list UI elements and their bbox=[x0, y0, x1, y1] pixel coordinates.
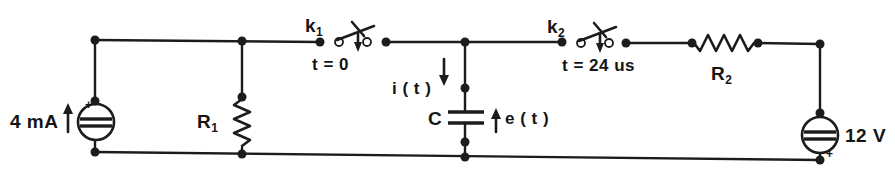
resistor-r2-label: R2 bbox=[711, 64, 732, 86]
node-capacitor-upper bbox=[461, 84, 470, 93]
node-r1-upper bbox=[238, 93, 247, 102]
resistor-r2-symbol bbox=[694, 35, 754, 51]
switch-k1-letter: k bbox=[305, 15, 316, 36]
node-voltage-source-top bbox=[816, 109, 825, 118]
node-k2-right bbox=[622, 39, 631, 48]
switch-k2-letter: k bbox=[547, 16, 558, 37]
switch-k1-label: k1 bbox=[305, 16, 323, 38]
current-source-plus-sign: + bbox=[85, 99, 92, 111]
node-k1-right bbox=[382, 38, 391, 47]
switch-k2-closing-arrow-head bbox=[596, 43, 604, 53]
resistor-r1-symbol bbox=[234, 99, 250, 146]
wire-top-right-b bbox=[758, 43, 820, 44]
current-i-arrow-head bbox=[439, 75, 449, 86]
switch-k2-terminal-right bbox=[605, 39, 613, 47]
node-capacitor-lower bbox=[461, 138, 470, 147]
node-r2-right bbox=[754, 39, 763, 48]
switch-k2-subscript: 2 bbox=[558, 26, 565, 40]
current-i-label: i ( t ) bbox=[392, 80, 431, 97]
switch-k2-time-label: t = 24 us bbox=[562, 57, 635, 74]
current-direction-arrow-head bbox=[63, 103, 73, 114]
wire-bottom-rail bbox=[95, 152, 820, 160]
node-r1-bottom bbox=[238, 150, 247, 159]
current-source-label: 4 mA bbox=[10, 112, 58, 131]
voltage-source-label: 12 V bbox=[845, 126, 886, 145]
wire-top-left bbox=[95, 40, 320, 42]
switch-k1-closing-arrow-head bbox=[354, 42, 362, 52]
capacitor-label: C bbox=[428, 109, 442, 128]
switch-k1-subscript: 1 bbox=[316, 25, 323, 39]
switch-k1-terminal-right bbox=[363, 38, 371, 46]
resistor-r1-letter: R bbox=[197, 111, 211, 132]
resistor-r2-subscript: 2 bbox=[725, 73, 732, 87]
node-r1-top bbox=[238, 37, 247, 46]
switch-k1-time-label: t = 0 bbox=[312, 56, 349, 73]
resistor-r1-subscript: 1 bbox=[211, 121, 218, 135]
resistor-r1-label: R1 bbox=[197, 112, 218, 134]
resistor-r2-letter: R bbox=[711, 63, 725, 84]
node-capacitor-top-rail bbox=[461, 38, 470, 47]
node-capacitor-bottom-rail bbox=[461, 153, 470, 162]
node-top-right bbox=[816, 40, 825, 49]
circuit-schematic-canvas bbox=[0, 0, 895, 180]
voltage-e-label: e ( t ) bbox=[505, 110, 549, 127]
current-source-symbol bbox=[78, 104, 114, 140]
circuit-diagram: 4 mA + R1 k1 t = 0 i ( t ) C e ( t ) k2 … bbox=[0, 0, 895, 180]
node-r2-left bbox=[688, 39, 697, 48]
node-top-left bbox=[91, 36, 100, 45]
node-bottom-right bbox=[816, 156, 825, 165]
voltage-e-arrow-head bbox=[491, 108, 501, 119]
switch-k2-label: k2 bbox=[547, 17, 565, 39]
node-bottom-left bbox=[91, 148, 100, 157]
voltage-source-plus-sign: + bbox=[826, 148, 833, 160]
